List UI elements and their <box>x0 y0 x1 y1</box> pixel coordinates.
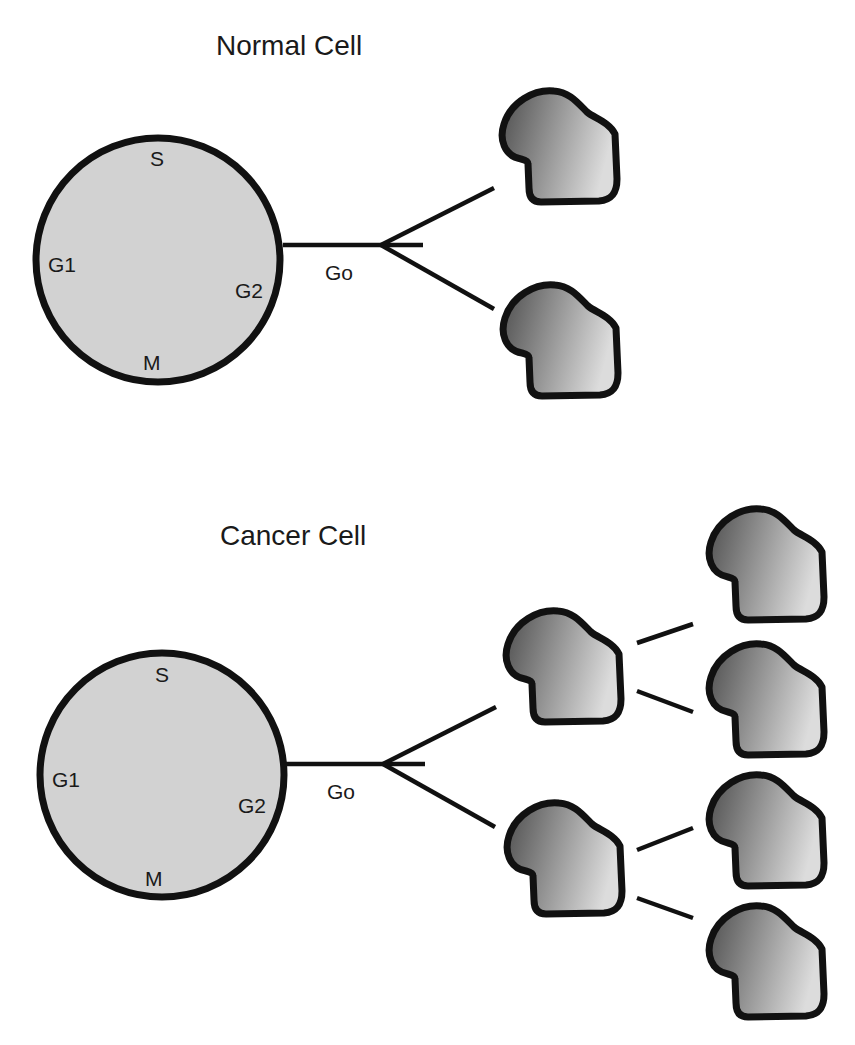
cancer-fork-lower-branch <box>383 764 495 827</box>
normal-fork-upper-branch <box>381 188 494 245</box>
normal-daughter-cell-2 <box>503 285 618 396</box>
normal-cell-title: Normal Cell <box>216 30 362 61</box>
cancer-phase-m-label: M <box>145 867 163 890</box>
cancer-second-gen-cell-2 <box>709 644 824 755</box>
cancer-second-gen-cell-1 <box>709 509 824 620</box>
cancer-connector-4 <box>637 898 693 918</box>
cancer-connector-3 <box>637 828 693 850</box>
normal-phase-m-label: M <box>143 351 161 374</box>
cancer-phase-g1-label: G1 <box>52 768 80 791</box>
normal-phase-s-label: S <box>150 147 164 170</box>
cancer-fork-upper-branch <box>383 707 496 764</box>
cancer-phase-s-label: S <box>155 663 169 686</box>
cancer-connector-2 <box>637 691 693 712</box>
cancer-first-gen-cell-1 <box>506 611 621 722</box>
cancer-second-gen-cell-3 <box>709 775 824 886</box>
cancer-first-gen-cell-2 <box>507 803 622 914</box>
normal-cell-section: Normal Cell S G1 G2 M Go <box>36 30 618 396</box>
normal-daughter-cell-1 <box>502 91 617 202</box>
normal-fork-lower-branch <box>381 245 494 309</box>
normal-go-label: Go <box>325 261 353 284</box>
cancer-cell-title: Cancer Cell <box>220 520 366 551</box>
cancer-phase-g2-label: G2 <box>238 794 266 817</box>
normal-phase-g1-label: G1 <box>48 253 76 276</box>
cancer-second-gen-cell-4 <box>709 906 824 1017</box>
cancer-cell-section: Cancer Cell S G1 G2 M Go <box>40 509 824 1017</box>
cancer-go-label: Go <box>327 780 355 803</box>
cell-cycle-diagram: Normal Cell S G1 G2 M Go Cancer Cell S G… <box>0 0 855 1045</box>
cancer-connector-1 <box>637 624 693 643</box>
normal-phase-g2-label: G2 <box>235 279 263 302</box>
